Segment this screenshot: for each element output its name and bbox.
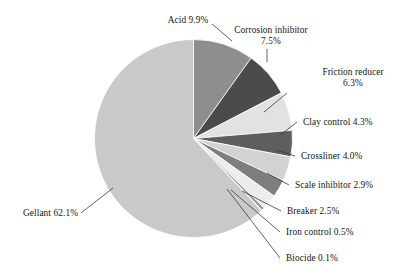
slice-label-friction-reducer-value: 6.3%	[307, 78, 399, 89]
slice-label-friction-reducer: Friction reducer	[307, 67, 399, 78]
leader-line-gellant	[81, 188, 113, 213]
slice-label-iron-control: Iron control 0.5%	[286, 227, 354, 238]
slice-label-biocide: Biocide 0.1%	[286, 253, 338, 264]
slice-label-corrosion-inhibitor-value: 7.5%	[225, 36, 317, 47]
slice-label-corrosion-inhibitor: Corrosion inhibitor	[225, 25, 317, 36]
pie-slices-group	[95, 40, 293, 238]
slice-label-scale-inhibitor: Scale inhibitor 2.9%	[295, 180, 373, 191]
pie-chart: Acid 9.9% Corrosion inhibitor 7.5% Frict…	[0, 0, 409, 280]
slice-label-breaker: Breaker 2.5%	[287, 206, 339, 217]
slice-label-crossliner: Crossliner 4.0%	[301, 151, 362, 162]
slice-label-acid: Acid 9.9%	[160, 15, 216, 26]
pie-chart-canvas	[0, 0, 409, 280]
slice-label-gellant: Gellant 62.1%	[6, 208, 78, 219]
slice-label-clay-control: Clay control 4.3%	[303, 117, 373, 128]
